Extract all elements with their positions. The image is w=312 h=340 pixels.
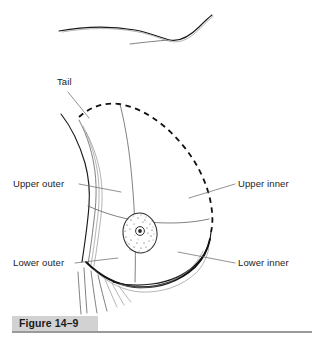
label-lower-inner: Lower inner [238, 258, 289, 268]
breast-anatomy-illustration [0, 0, 312, 340]
chest-wall-hatching [78, 268, 131, 314]
leader-line-lower-inner [178, 252, 235, 263]
axilla-fold-1 [79, 120, 96, 264]
label-upper-outer: Upper outer [13, 179, 64, 189]
label-tail: Tail [57, 77, 72, 87]
quadrant-dividers-group [88, 104, 209, 282]
leader-line-upper-outer [79, 184, 121, 192]
nipple-center [138, 229, 142, 233]
torso-left-contour [61, 114, 89, 262]
label-upper-inner: Upper inner [238, 179, 289, 189]
clavicle-contour-line [59, 15, 212, 40]
clavicle-contour-group [59, 15, 213, 44]
figure-container: Tail Upper outer Upper inner Lower outer… [0, 0, 312, 340]
leader-line-upper-inner [189, 184, 235, 198]
areola-nipple-group [120, 211, 159, 255]
clavicle-contour-highlight [62, 17, 213, 42]
clavicle-branch-line [130, 40, 168, 44]
axilla-torso-group [61, 114, 102, 266]
vertical-quadrant-divider [120, 104, 135, 282]
figure-caption: Figure 14–9 [19, 318, 79, 329]
leader-line-lower-outer [75, 258, 118, 263]
leader-line-tail [68, 92, 89, 118]
label-lower-outer: Lower outer [13, 258, 64, 268]
caption-rule [12, 331, 312, 333]
